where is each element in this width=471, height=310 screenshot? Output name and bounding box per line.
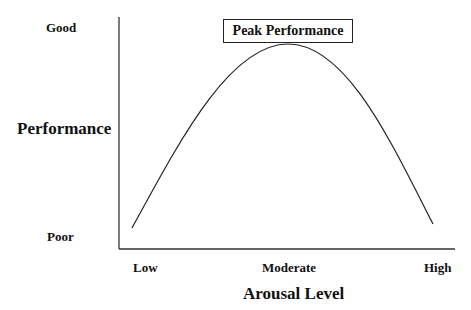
y-axis-title: Performance xyxy=(17,119,111,139)
x-tick-moderate: Moderate xyxy=(262,260,316,276)
plot-area xyxy=(0,0,471,310)
y-tick-poor: Poor xyxy=(47,229,74,245)
performance-curve xyxy=(132,44,433,228)
y-tick-good: Good xyxy=(46,20,76,36)
x-tick-low: Low xyxy=(133,260,158,276)
x-tick-high: High xyxy=(424,260,451,276)
peak-performance-annotation: Peak Performance xyxy=(223,19,353,43)
x-axis-title: Arousal Level xyxy=(243,284,344,304)
